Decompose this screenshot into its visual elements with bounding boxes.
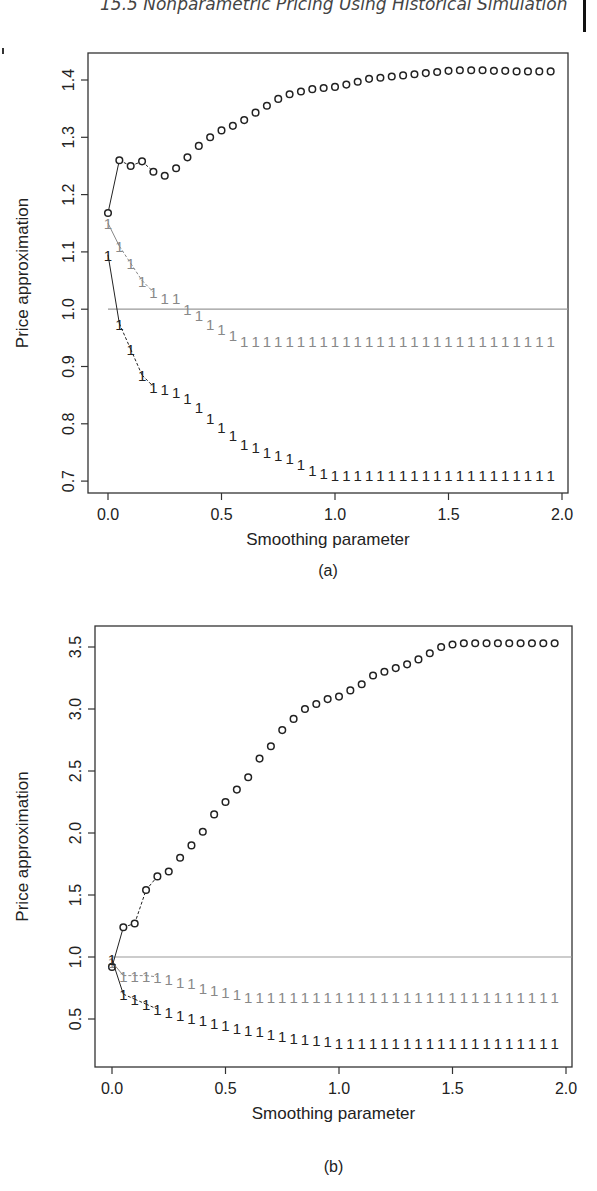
data-point: 1 — [206, 316, 214, 333]
data-point — [150, 168, 157, 175]
data-point: 1 — [422, 467, 430, 484]
data-point — [120, 924, 127, 931]
data-point — [313, 701, 320, 708]
data-point: 1 — [187, 1010, 195, 1027]
data-point: 1 — [319, 465, 327, 482]
data-point — [400, 72, 407, 79]
data-point: 1 — [278, 1028, 286, 1045]
data-point — [143, 887, 150, 894]
data-point: 1 — [471, 989, 479, 1006]
data-point: 1 — [331, 333, 339, 350]
data-point — [286, 91, 293, 98]
data-point — [320, 85, 327, 92]
data-point — [196, 143, 203, 150]
data-point — [177, 855, 184, 862]
data-point: 1 — [195, 307, 203, 324]
data-point: 1 — [183, 390, 191, 407]
data-point: 1 — [289, 1030, 297, 1047]
data-point — [392, 665, 399, 672]
data-point: 1 — [217, 321, 225, 338]
data-point: 1 — [165, 1004, 173, 1021]
data-point: 1 — [403, 1035, 411, 1052]
data-point: 1 — [161, 290, 169, 307]
data-point — [268, 743, 275, 750]
data-point: 1 — [199, 980, 207, 997]
data-point: 1 — [119, 986, 127, 1003]
data-point: 1 — [501, 467, 509, 484]
data-point: 1 — [433, 467, 441, 484]
data-point: 1 — [399, 467, 407, 484]
data-point: 1 — [176, 974, 184, 991]
data-point: 1 — [285, 450, 293, 467]
data-point — [506, 640, 513, 647]
data-point: 1 — [301, 1031, 309, 1048]
data-point: 1 — [221, 984, 229, 1001]
data-point: 1 — [308, 333, 316, 350]
data-point: 1 — [244, 1022, 252, 1039]
data-point: 1 — [165, 971, 173, 988]
data-point: 1 — [482, 1035, 490, 1052]
data-point — [211, 811, 218, 818]
data-point: 1 — [490, 333, 498, 350]
data-point: 1 — [176, 1007, 184, 1024]
data-point: 1 — [410, 467, 418, 484]
data-point: 1 — [410, 333, 418, 350]
data-point: 1 — [153, 969, 161, 986]
data-point: 1 — [263, 333, 271, 350]
data-point: 1 — [119, 968, 127, 985]
data-point: 1 — [414, 989, 422, 1006]
series-circles — [105, 67, 554, 216]
data-point — [207, 134, 214, 141]
data-point — [502, 68, 509, 75]
data-point: 1 — [422, 333, 430, 350]
data-point — [241, 117, 248, 124]
data-point: 1 — [539, 1035, 547, 1052]
data-point: 1 — [335, 1035, 343, 1052]
data-point: 1 — [516, 1035, 524, 1052]
data-point — [445, 68, 452, 75]
data-point: 1 — [460, 1035, 468, 1052]
data-point: 1 — [323, 1033, 331, 1050]
data-point — [525, 68, 532, 75]
data-point — [161, 172, 168, 179]
data-point — [540, 640, 547, 647]
data-point: 1 — [195, 399, 203, 416]
data-point: 1 — [437, 989, 445, 1006]
data-point: 1 — [161, 381, 169, 398]
chart-a: 0.00.51.01.52.00.70.80.91.01.11.21.31.4S… — [0, 0, 597, 600]
data-point: 1 — [115, 238, 123, 255]
y-tick-label: 1.0 — [67, 946, 84, 968]
data-point: 1 — [437, 1035, 445, 1052]
data-point: 1 — [528, 989, 536, 1006]
data-point: 1 — [312, 989, 320, 1006]
data-point — [404, 661, 411, 668]
data-point: 1 — [535, 467, 543, 484]
data-point — [264, 102, 271, 109]
data-point — [491, 68, 498, 75]
data-point — [479, 67, 486, 74]
data-point: 1 — [153, 1001, 161, 1018]
data-point — [366, 76, 373, 83]
x-tick-label: 1.5 — [437, 506, 459, 523]
data-point — [230, 123, 237, 130]
data-point: 1 — [444, 467, 452, 484]
data-point: 1 — [138, 273, 146, 290]
data-point: 1 — [433, 333, 441, 350]
data-point: 1 — [354, 467, 362, 484]
data-point: 1 — [501, 333, 509, 350]
data-point: 1 — [172, 384, 180, 401]
data-point — [411, 71, 418, 78]
data-point: 1 — [505, 989, 513, 1006]
data-point — [449, 641, 456, 648]
data-point — [495, 640, 502, 647]
data-point: 1 — [467, 333, 475, 350]
data-point — [290, 716, 297, 723]
data-point: 1 — [127, 341, 135, 358]
data-point: 1 — [460, 989, 468, 1006]
data-point — [188, 842, 195, 849]
data-point: 1 — [199, 1012, 207, 1029]
y-tick-label: 0.9 — [60, 355, 77, 377]
data-point — [536, 68, 543, 75]
data-point: 1 — [524, 467, 532, 484]
data-point: 1 — [240, 436, 248, 453]
